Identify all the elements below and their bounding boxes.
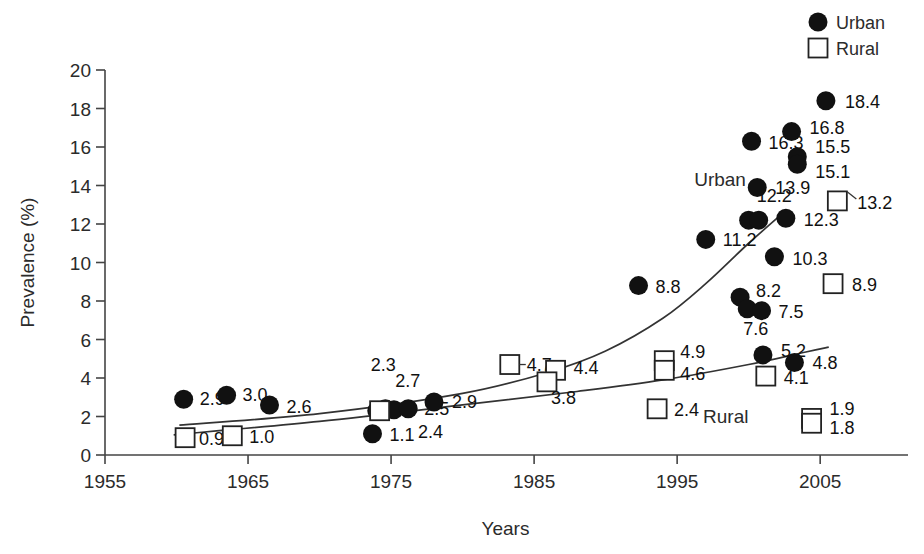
legend-marker-urban — [809, 13, 828, 32]
data-point-rural[interactable] — [648, 399, 667, 418]
data-point-rural[interactable] — [223, 426, 242, 445]
y-tick-label-18: 18 — [70, 99, 91, 120]
data-point-urban[interactable] — [776, 209, 795, 228]
data-point-value-label: 3.8 — [551, 388, 576, 408]
data-point-rural[interactable] — [370, 401, 389, 420]
data-point-urban[interactable] — [363, 424, 382, 443]
data-point-value-label: 7.5 — [779, 302, 804, 322]
data-point-value-label: 4.9 — [680, 342, 705, 362]
data-point-value-label: 15.1 — [815, 162, 850, 182]
y-axis-title: Prevalence (%) — [17, 198, 38, 328]
data-point-value-label: 11.2 — [723, 230, 757, 250]
urban-inline-label: Urban — [694, 169, 746, 190]
data-point-rural[interactable] — [176, 428, 195, 447]
data-point-rural[interactable] — [756, 367, 775, 386]
y-tick-label-4: 4 — [80, 368, 91, 389]
data-point-urban[interactable] — [696, 230, 715, 249]
data-point-value-label: 10.3 — [792, 249, 827, 269]
data-point-value-label: 8.9 — [852, 275, 877, 295]
data-point-value-label: 12.3 — [804, 210, 839, 230]
x-tick-label-1955: 1955 — [84, 471, 126, 492]
x-axis-title: Years — [482, 518, 530, 539]
data-point-urban[interactable] — [217, 386, 236, 405]
data-point-urban[interactable] — [753, 345, 772, 364]
y-tick-label-20: 20 — [70, 60, 91, 81]
data-point-urban[interactable] — [399, 399, 418, 418]
data-point-value-label: 1.1 — [389, 425, 414, 445]
legend-label-rural: Rural — [836, 39, 879, 59]
data-point-value-label: 4.1 — [784, 368, 809, 388]
legend-marker-rural — [809, 39, 828, 58]
prevalence-scatter-chart: 0246810121416182019551965197519851995200… — [0, 0, 924, 554]
x-tick-label-1995: 1995 — [656, 471, 698, 492]
data-point-urban[interactable] — [782, 122, 801, 141]
data-point-value-label: 4.6 — [680, 364, 705, 384]
data-point-rural[interactable] — [802, 414, 821, 433]
data-point-value-label: 18.4 — [845, 92, 880, 112]
data-point-urban[interactable] — [816, 91, 835, 110]
data-point-value-label: 1.0 — [249, 427, 274, 447]
data-point-urban[interactable] — [752, 301, 771, 320]
data-point-value-label: 13.2 — [857, 193, 892, 213]
data-point-urban[interactable] — [629, 276, 648, 295]
data-point-value-label: 4.8 — [812, 353, 837, 373]
data-point-urban[interactable] — [424, 393, 443, 412]
legend-label-urban: Urban — [836, 13, 885, 33]
x-tick-label-1965: 1965 — [227, 471, 269, 492]
data-point-value-label: 15.5 — [815, 137, 850, 157]
y-tick-label-14: 14 — [70, 176, 92, 197]
leader-line-13-2 — [847, 191, 857, 199]
urban-trend — [179, 211, 785, 426]
y-tick-label-2: 2 — [80, 407, 91, 428]
data-point-urban[interactable] — [174, 390, 193, 409]
data-point-value-label: 2.4 — [418, 422, 443, 442]
data-point-value-label: 2.3 — [371, 355, 396, 375]
data-point-urban[interactable] — [742, 132, 761, 151]
x-tick-label-1975: 1975 — [370, 471, 412, 492]
data-point-rural[interactable] — [828, 191, 847, 210]
chart-canvas: 0246810121416182019551965197519851995200… — [0, 0, 924, 554]
data-point-rural[interactable] — [655, 361, 674, 380]
data-point-value-label: 1.9 — [830, 399, 855, 419]
data-point-value-label: 2.9 — [452, 392, 477, 412]
x-tick-label-2005: 2005 — [799, 471, 841, 492]
data-point-value-label: 16.8 — [810, 118, 845, 138]
x-tick-label-1985: 1985 — [513, 471, 555, 492]
y-tick-label-6: 6 — [80, 330, 91, 351]
y-tick-label-0: 0 — [80, 445, 91, 466]
data-point-urban[interactable] — [260, 395, 279, 414]
data-point-urban[interactable] — [765, 247, 784, 266]
y-tick-label-16: 16 — [70, 137, 91, 158]
data-point-value-label: 2.4 — [674, 400, 699, 420]
y-tick-label-12: 12 — [70, 214, 91, 235]
data-point-value-label: 13.9 — [775, 178, 810, 198]
data-point-urban[interactable] — [748, 178, 767, 197]
data-point-urban[interactable] — [749, 211, 768, 230]
data-point-value-label: 1.8 — [830, 418, 855, 438]
data-point-value-label: 0.9 — [199, 429, 224, 449]
data-point-rural[interactable] — [824, 274, 843, 293]
rural-inline-label: Rural — [703, 406, 748, 427]
data-point-urban[interactable] — [788, 155, 807, 174]
data-point-value-label: 4.4 — [574, 358, 599, 378]
data-point-value-label: 7.6 — [743, 319, 768, 339]
data-point-value-label: 2.7 — [395, 371, 420, 391]
data-point-value-label: 8.2 — [756, 281, 781, 301]
y-tick-label-10: 10 — [70, 253, 91, 274]
data-point-value-label: 2.6 — [286, 397, 311, 417]
data-point-rural[interactable] — [500, 355, 519, 374]
data-point-value-label: 8.8 — [656, 277, 681, 297]
y-tick-label-8: 8 — [80, 291, 91, 312]
